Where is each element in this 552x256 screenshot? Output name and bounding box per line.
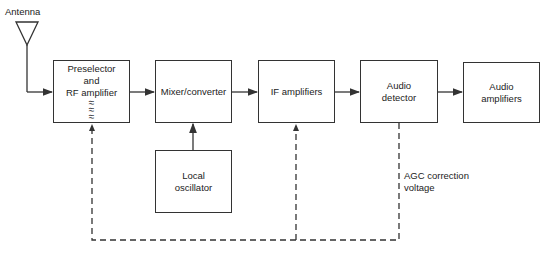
block-mixer-converter: Mixer/converter bbox=[155, 60, 232, 123]
antenna-label: Antenna bbox=[5, 6, 40, 18]
block-label-line: detector bbox=[382, 92, 416, 104]
block-label-line: Preselector bbox=[67, 63, 115, 75]
block-if-amplifiers: IF amplifiers bbox=[258, 60, 335, 123]
block-label-line: IF amplifiers bbox=[271, 86, 323, 98]
block-label-line: oscillator bbox=[175, 182, 213, 194]
block-audio-amplifiers: Audio amplifiers bbox=[463, 62, 540, 123]
diagram-connections bbox=[0, 0, 552, 256]
block-audio-detector: Audio detector bbox=[360, 60, 438, 123]
block-label-line: Audio bbox=[489, 81, 513, 93]
block-label-line: Audio bbox=[387, 80, 411, 92]
block-label-line: amplifiers bbox=[481, 93, 522, 105]
agc-feedback-path bbox=[92, 123, 399, 240]
block-local-oscillator: Local oscillator bbox=[155, 150, 232, 213]
block-preselector-rf-amplifier: Preselector and RF amplifier ≈≈≈ bbox=[53, 60, 130, 123]
antenna-icon bbox=[16, 22, 52, 92]
block-label-line: Mixer/converter bbox=[161, 86, 226, 98]
block-label-line: Local bbox=[182, 170, 205, 182]
block-label-line: and bbox=[84, 75, 100, 87]
filter-symbol-icon: ≈≈≈ bbox=[89, 99, 95, 120]
agc-label: AGC correction voltage bbox=[404, 170, 469, 194]
